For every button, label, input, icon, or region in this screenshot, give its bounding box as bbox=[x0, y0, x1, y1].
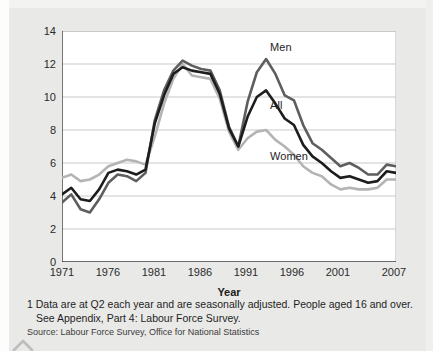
y-tick-6: 6 bbox=[30, 157, 56, 169]
x-tick-1991: 1991 bbox=[226, 266, 266, 278]
plot-area: Men All Women bbox=[62, 31, 396, 262]
series-label-all: All bbox=[270, 99, 282, 111]
chart-canvas bbox=[62, 31, 396, 262]
figure-panel: Percentages 14 12 10 8 6 4 2 0 Men All W… bbox=[0, 0, 433, 351]
footnote-block: 1 Data are at Q2 each year and are seaso… bbox=[27, 298, 427, 325]
x-tick-1976: 1976 bbox=[88, 266, 128, 278]
top-margin bbox=[0, 0, 433, 8]
y-tick-2: 2 bbox=[30, 223, 56, 235]
y-tick-10: 10 bbox=[30, 91, 56, 103]
series-label-women: Women bbox=[270, 150, 308, 162]
x-tick-2007: 2007 bbox=[374, 266, 414, 278]
axis-lines bbox=[62, 31, 396, 262]
x-tick-1986: 1986 bbox=[180, 266, 220, 278]
x-tick-1996: 1996 bbox=[272, 266, 312, 278]
footnote-line-1: 1 Data are at Q2 each year and are seaso… bbox=[27, 298, 413, 310]
chevron-up-icon bbox=[12, 338, 34, 351]
y-tick-8: 8 bbox=[30, 124, 56, 136]
series-label-men: Men bbox=[270, 41, 291, 53]
y-tick-14: 14 bbox=[30, 25, 56, 37]
right-margin bbox=[426, 0, 433, 351]
left-margin bbox=[0, 0, 9, 351]
series-lines bbox=[62, 59, 396, 212]
source-line: Source: Labour Force Survey, Office for … bbox=[27, 327, 427, 337]
y-tick-12: 12 bbox=[30, 58, 56, 70]
x-tick-1971: 1971 bbox=[42, 266, 82, 278]
footnote-line-2: See Appendix, Part 4: Labour Force Surve… bbox=[27, 312, 427, 326]
y-tick-4: 4 bbox=[30, 190, 56, 202]
x-tick-1981: 1981 bbox=[134, 266, 174, 278]
x-axis-title: Year bbox=[62, 286, 396, 298]
x-tick-2001: 2001 bbox=[318, 266, 358, 278]
